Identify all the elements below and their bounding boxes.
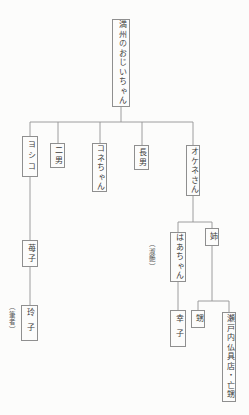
node-sachiko: 幸子 <box>170 310 186 347</box>
node-reiko-author: 玲子 <box>21 305 38 341</box>
haachan-annotation: （淑艶） <box>147 240 154 270</box>
author-annotation: （筆者） <box>7 303 14 333</box>
node-label: ヨシコ <box>26 140 34 173</box>
node-yoshiko: ヨシコ <box>22 136 38 177</box>
node-yoshiko-daughter: 苺子 <box>22 240 38 267</box>
node-eldest-son: 長男 <box>134 145 149 170</box>
node-label: 苺子 <box>26 244 34 263</box>
node-label: はあちゃん <box>174 233 182 281</box>
node-okene-san: オケネさん <box>186 145 200 196</box>
node-label: 姉 <box>208 232 216 242</box>
node-manchuria-grandfather: 満州のおじいちゃん <box>112 19 130 107</box>
node-kone-chan: コネちゃん <box>92 143 107 192</box>
node-label: 幸子 <box>174 314 182 344</box>
node-label: 満州のおじいちゃん <box>117 20 125 106</box>
node-label: 玲子 <box>26 308 34 338</box>
node-setouchi-butsugu-deceased-nephew: 瀬戸内仏具店・亡甥 <box>222 312 236 402</box>
node-label: 瀬戸内仏具店・亡甥 <box>225 314 233 400</box>
family-tree-page: 満州のおじいちゃん ヨシコ 二男 コネちゃん 長男 オケネさん 苺子 （筆者） … <box>0 0 249 415</box>
node-nephew: 甥 <box>191 310 205 328</box>
node-label: 二男 <box>54 146 62 165</box>
node-label: 甥 <box>194 314 202 324</box>
node-second-son: 二男 <box>50 143 65 168</box>
node-haachan: はあちゃん <box>170 232 186 282</box>
node-label: 長男 <box>138 148 146 167</box>
node-ane: 姉 <box>205 228 219 246</box>
node-label: オケネさん <box>189 147 197 195</box>
node-label: コネちゃん <box>96 144 104 192</box>
